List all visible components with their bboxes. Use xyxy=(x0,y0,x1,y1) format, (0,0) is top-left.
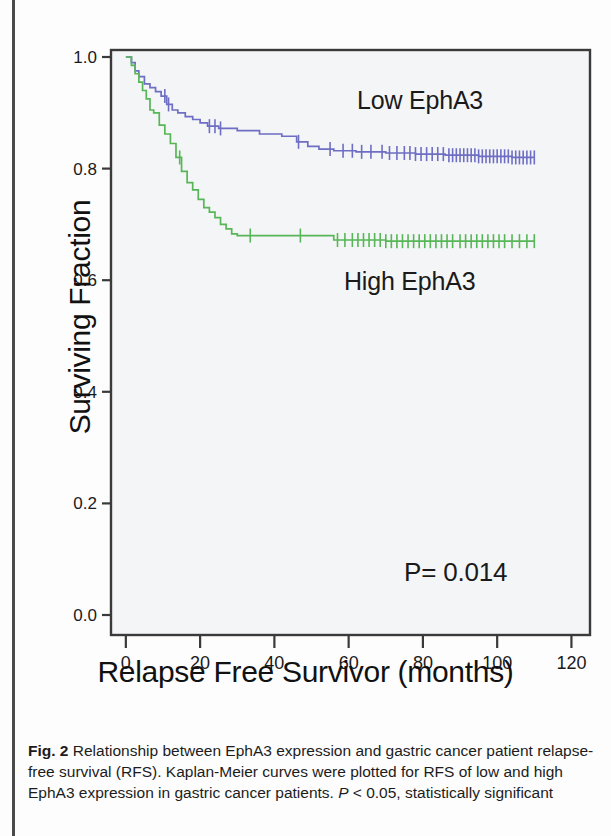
annotation-high-epha3: High EphA3 xyxy=(344,267,475,296)
plot-background xyxy=(111,50,590,635)
annotation-p-value: P= 0.014 xyxy=(404,557,507,588)
annotation-low-epha3: Low EphA3 xyxy=(357,86,483,115)
figure-container: 0.00.20.40.60.81.0020406080100120 Low Ep… xyxy=(0,0,611,836)
caption-stat-symbol: P xyxy=(338,784,348,801)
y-axis-title: Surviving Fraction xyxy=(63,37,97,597)
caption-label: Fig. 2 xyxy=(28,742,68,759)
x-axis-title: Relapse Free Survivor (months) xyxy=(0,655,611,689)
y-tick-label: 0.0 xyxy=(73,606,97,625)
caption-stat-rest: < 0.05, statistically significant xyxy=(349,784,554,801)
figure-caption: Fig. 2 Relationship between EphA3 expres… xyxy=(28,740,594,803)
